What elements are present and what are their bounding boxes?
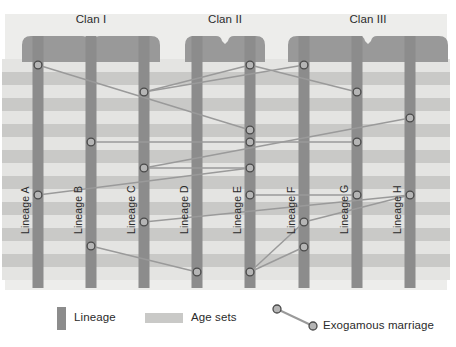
marriage-node[interactable] <box>300 61 308 69</box>
marriage-node[interactable] <box>140 218 148 226</box>
marriage-node[interactable] <box>300 218 308 226</box>
legend-label-age-sets: Age sets <box>191 311 237 323</box>
marriage-node[interactable] <box>140 88 148 96</box>
marriage-node[interactable] <box>34 61 42 69</box>
marriage-node[interactable] <box>406 191 414 199</box>
lineage-bar <box>405 36 416 288</box>
marriage-node-swatch <box>273 305 281 313</box>
age-set-band <box>2 176 450 189</box>
marriage-node[interactable] <box>87 242 95 250</box>
legend-label-marriage: Exogamous marriage <box>323 319 434 331</box>
lineage-bar <box>352 36 363 288</box>
lineage-label: Lineage B <box>72 186 84 234</box>
age-set-band <box>2 215 450 228</box>
age-set-band <box>2 163 450 176</box>
marriage-node[interactable] <box>353 88 361 96</box>
age-set-band <box>2 137 450 150</box>
marriage-node[interactable] <box>246 191 254 199</box>
lineage-label: Lineage F <box>285 186 297 234</box>
age-set-bands-group <box>2 59 450 280</box>
marriage-node[interactable] <box>246 164 254 172</box>
age-set-band <box>2 98 450 111</box>
age-set-band <box>2 241 450 254</box>
age-set-band <box>2 85 450 98</box>
marriage-node[interactable] <box>246 61 254 69</box>
age-set-band <box>2 267 450 280</box>
lineage-label: Lineage E <box>231 186 243 234</box>
clan-label: Clan II <box>208 13 242 25</box>
lineage-label: Lineage A <box>19 186 31 234</box>
lineage-bar <box>139 36 150 288</box>
lineage-label: Lineage C <box>125 185 137 234</box>
kinship-diagram-svg <box>0 0 456 347</box>
marriage-node[interactable] <box>246 138 254 146</box>
marriage-node[interactable] <box>193 268 201 276</box>
lineage-label: Lineage H <box>391 185 403 234</box>
age-set-band <box>2 228 450 241</box>
marriage-node-swatch <box>309 322 317 330</box>
marriage-node[interactable] <box>246 268 254 276</box>
lineage-label: Lineage G <box>338 185 350 234</box>
clan-label: Clan I <box>76 13 107 25</box>
lineage-bar <box>192 36 203 288</box>
age-set-band-swatch <box>145 313 183 323</box>
legend-label-lineage: Lineage <box>74 311 116 323</box>
marriage-node[interactable] <box>353 138 361 146</box>
clan-label: Clan III <box>349 13 386 25</box>
marriage-node[interactable] <box>87 138 95 146</box>
marriage-node[interactable] <box>406 114 414 122</box>
marriage-node[interactable] <box>140 164 148 172</box>
age-set-band <box>2 124 450 137</box>
marriage-node[interactable] <box>353 191 361 199</box>
marriage-link-swatch <box>277 309 313 326</box>
marriage-node[interactable] <box>300 243 308 251</box>
marriage-node[interactable] <box>246 126 254 134</box>
lineage-label: Lineage D <box>178 185 190 234</box>
lineage-bar-swatch <box>57 307 66 330</box>
figure-canvas: Clan IClan IIClan IIILineage ALineage BL… <box>0 0 456 347</box>
age-set-band <box>2 254 450 267</box>
lineage-bar <box>33 36 44 288</box>
marriage-node[interactable] <box>34 191 42 199</box>
